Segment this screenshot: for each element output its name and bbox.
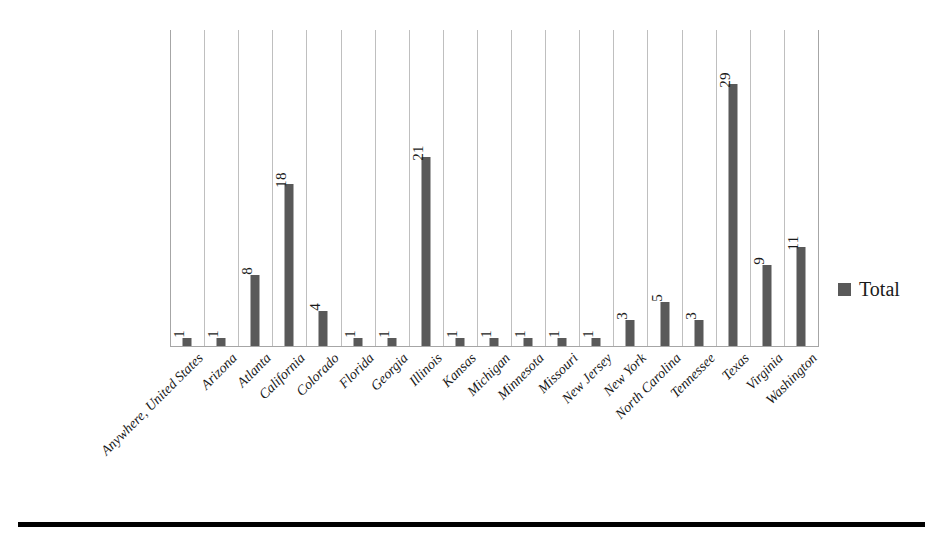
bar-value-label: 21: [411, 145, 426, 160]
bar[interactable]: [660, 302, 669, 347]
bar-slot[interactable]: 3: [682, 30, 716, 347]
bar-value-label: 29: [718, 72, 733, 87]
bar-series-total: 11818411211111135329911: [170, 30, 818, 347]
bar-slot[interactable]: 1: [170, 30, 204, 347]
bar[interactable]: [626, 320, 635, 347]
bar-value-label: 1: [445, 330, 460, 338]
bar[interactable]: [796, 247, 805, 347]
bar-value-label: 4: [308, 303, 323, 311]
bar-value-label: 1: [343, 330, 358, 338]
bar[interactable]: [251, 275, 260, 347]
bar-value-label: 18: [274, 172, 289, 187]
bar[interactable]: [319, 311, 328, 347]
bar-slot[interactable]: 8: [238, 30, 272, 347]
x-axis-label: Illinois: [407, 351, 445, 389]
bar-value-label: 3: [615, 312, 630, 320]
bar[interactable]: [285, 184, 294, 347]
bar-value-label: 1: [581, 330, 596, 338]
gridline: [818, 30, 819, 347]
bar[interactable]: [762, 265, 771, 347]
bar-slot[interactable]: 18: [272, 30, 306, 347]
x-axis-label: Anywhere, United States: [99, 351, 207, 459]
bar[interactable]: [694, 320, 703, 347]
bar-slot[interactable]: 1: [545, 30, 579, 347]
bar-slot[interactable]: 1: [375, 30, 409, 347]
bar-slot[interactable]: 1: [204, 30, 238, 347]
bar-value-label: 1: [547, 330, 562, 338]
bar-value-label: 1: [479, 330, 494, 338]
bar-slot[interactable]: 1: [511, 30, 545, 347]
bar-slot[interactable]: 1: [477, 30, 511, 347]
bar[interactable]: [421, 157, 430, 347]
bar-slot[interactable]: 5: [647, 30, 681, 347]
bar-slot[interactable]: 9: [750, 30, 784, 347]
plot-area: 11818411211111135329911: [170, 30, 818, 347]
bar-slot[interactable]: 1: [443, 30, 477, 347]
bar-slot[interactable]: 4: [306, 30, 340, 347]
bar-slot[interactable]: 21: [409, 30, 443, 347]
bar-value-label: 3: [684, 312, 699, 320]
bar-value-label: 1: [172, 330, 187, 338]
bar-slot[interactable]: 11: [784, 30, 818, 347]
legend-swatch-total: [838, 283, 851, 296]
bar-value-label: 9: [752, 257, 767, 265]
chart-canvas: 11818411211111135329911 Anywhere, United…: [0, 0, 949, 540]
x-axis-label: Arizona: [199, 351, 241, 393]
bar-value-label: 1: [513, 330, 528, 338]
bar-value-label: 8: [240, 267, 255, 275]
bar-slot[interactable]: 1: [341, 30, 375, 347]
bar-value-label: 1: [206, 330, 221, 338]
x-axis-label: Georgia: [368, 351, 411, 394]
bar-slot[interactable]: 3: [613, 30, 647, 347]
x-axis-line: [170, 346, 819, 347]
bar[interactable]: [728, 84, 737, 347]
bar-value-label: 5: [650, 294, 665, 302]
bar-value-label: 1: [377, 330, 392, 338]
bar-slot[interactable]: 29: [716, 30, 750, 347]
legend-label-total: Total: [859, 279, 900, 299]
x-axis-category-labels: Anywhere, United StatesArizonaAtlantaCal…: [170, 349, 818, 509]
bar-value-label: 11: [786, 236, 801, 251]
bar-slot[interactable]: 1: [579, 30, 613, 347]
bottom-divider-rule: [18, 522, 925, 527]
chart-legend: Total: [838, 279, 900, 299]
